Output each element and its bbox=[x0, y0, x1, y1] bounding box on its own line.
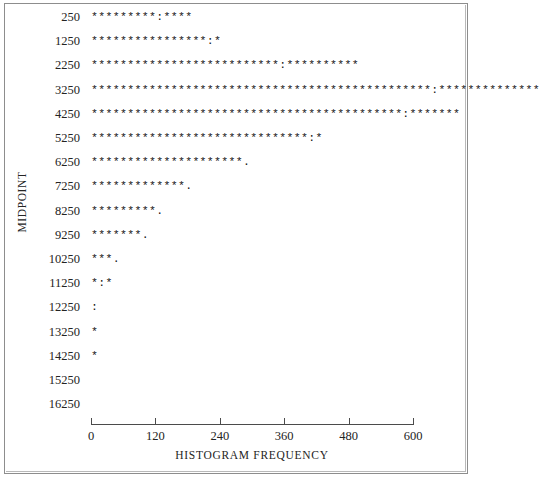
histogram-row: 8250*********. bbox=[0, 200, 472, 222]
x-axis-tick-mark bbox=[284, 418, 285, 425]
x-axis-tick-mark bbox=[220, 418, 221, 425]
y-axis-tick-label: 250 bbox=[18, 6, 80, 28]
y-axis-tick-label: 6250 bbox=[18, 151, 80, 173]
histogram-row: 13250* bbox=[0, 321, 472, 343]
x-axis-title: HISTOGRAM FREQUENCY bbox=[91, 449, 413, 461]
y-axis-tick-label: 3250 bbox=[18, 79, 80, 101]
x-axis-line bbox=[91, 424, 413, 425]
x-axis-tick-label: 480 bbox=[319, 429, 379, 444]
y-axis-tick-label: 5250 bbox=[18, 127, 80, 149]
histogram-bar-glyphs: ****************************************… bbox=[91, 79, 540, 101]
x-axis-tick-label: 0 bbox=[61, 429, 121, 444]
histogram-row: 2250**************************:*********… bbox=[0, 54, 472, 76]
histogram-row: 16250 bbox=[0, 393, 472, 415]
histogram-bar-glyphs: *******. bbox=[91, 224, 149, 246]
histogram-bar-glyphs: ***. bbox=[91, 248, 120, 270]
x-axis-tick-mark bbox=[91, 418, 92, 425]
y-axis-tick-label: 16250 bbox=[18, 393, 80, 415]
histogram-bar-glyphs: **************************:********** bbox=[91, 54, 359, 76]
histogram-row: 3250************************************… bbox=[0, 79, 472, 101]
histogram-bar-glyphs: *********. bbox=[91, 200, 163, 222]
y-axis-tick-label: 13250 bbox=[18, 321, 80, 343]
y-axis-tick-label: 4250 bbox=[18, 103, 80, 125]
x-axis-tick-mark bbox=[155, 418, 156, 425]
histogram-row: 9250*******. bbox=[0, 224, 472, 246]
histogram-row: 6250*********************. bbox=[0, 151, 472, 173]
histogram-bar-glyphs: ****************:* bbox=[91, 30, 221, 52]
x-axis-tick-label: 360 bbox=[254, 429, 314, 444]
histogram-row: 11250*:* bbox=[0, 272, 472, 294]
histogram-bar-glyphs: : bbox=[91, 296, 98, 318]
histogram-bar-glyphs: *:* bbox=[91, 272, 113, 294]
histogram-bar-glyphs: * bbox=[91, 321, 98, 343]
histogram-row: 15250 bbox=[0, 369, 472, 391]
histogram-row: 12250: bbox=[0, 296, 472, 318]
histogram-row: 7250*************. bbox=[0, 175, 472, 197]
x-axis-tick-mark bbox=[413, 418, 414, 425]
x-axis-tick-label: 240 bbox=[190, 429, 250, 444]
histogram-bar-glyphs: *********:**** bbox=[91, 6, 192, 28]
x-axis-tick-mark bbox=[349, 418, 350, 425]
y-axis-tick-label: 10250 bbox=[18, 248, 80, 270]
histogram-row: 5250******************************:* bbox=[0, 127, 472, 149]
histogram-row: 1250****************:* bbox=[0, 30, 472, 52]
y-axis-tick-label: 14250 bbox=[18, 345, 80, 367]
y-axis-tick-label: 11250 bbox=[18, 272, 80, 294]
x-axis-tick-label: 120 bbox=[125, 429, 185, 444]
histogram-bar-glyphs: * bbox=[91, 345, 98, 367]
y-axis-tick-label: 12250 bbox=[18, 296, 80, 318]
histogram-bar-glyphs: ******************************:* bbox=[91, 127, 323, 149]
histogram-row: 4250************************************… bbox=[0, 103, 472, 125]
histogram-row: 14250* bbox=[0, 345, 472, 367]
y-axis-tick-label: 1250 bbox=[18, 30, 80, 52]
histogram-bar-glyphs: *********************. bbox=[91, 151, 250, 173]
histogram-bar-glyphs: ****************************************… bbox=[91, 103, 460, 125]
histogram-row: 10250***. bbox=[0, 248, 472, 270]
y-axis-tick-label: 7250 bbox=[18, 175, 80, 197]
y-axis-tick-label: 2250 bbox=[18, 54, 80, 76]
y-axis-tick-label: 8250 bbox=[18, 200, 80, 222]
y-axis-tick-label: 15250 bbox=[18, 369, 80, 391]
histogram-bar-glyphs: *************. bbox=[91, 175, 192, 197]
y-axis-tick-label: 9250 bbox=[18, 224, 80, 246]
x-axis-tick-label: 600 bbox=[383, 429, 443, 444]
histogram-row: 250*********:**** bbox=[0, 6, 472, 28]
